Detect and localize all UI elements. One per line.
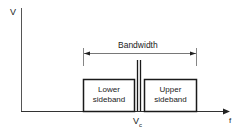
lower-sideband-line2: sideband [84, 95, 134, 105]
upper-sideband-label: Upper sideband [145, 85, 196, 105]
carrier-label: Vc [133, 116, 142, 130]
spectrum-diagram [0, 0, 248, 134]
lower-sideband-line1: Lower [84, 85, 134, 95]
lower-sideband-label: Lower sideband [84, 85, 134, 105]
y-axis-label: V [10, 7, 16, 17]
x-axis-label: f [229, 116, 231, 126]
bandwidth-right-arrow-icon [190, 52, 196, 56]
x-axis-arrow-icon [223, 109, 230, 115]
carrier-label-subscript: c [139, 122, 142, 128]
upper-sideband-line2: sideband [145, 95, 196, 105]
bandwidth-label: Bandwidth [118, 40, 158, 50]
bandwidth-left-arrow-icon [84, 52, 90, 56]
upper-sideband-line1: Upper [145, 85, 196, 95]
